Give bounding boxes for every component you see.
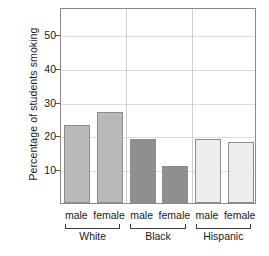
category-label: female [224, 209, 256, 221]
group-bracket [196, 224, 251, 229]
group-bracket [65, 224, 120, 229]
group-label: Hispanic [203, 230, 243, 242]
gridline [61, 70, 255, 71]
bar [228, 142, 254, 203]
bar [195, 139, 221, 203]
category-label: female [159, 209, 191, 221]
bar [130, 139, 156, 203]
bar [162, 166, 188, 203]
gridline [61, 104, 255, 105]
panel-separator [192, 9, 193, 203]
y-tick-label: 10 [22, 164, 56, 176]
category-label: male [196, 209, 219, 221]
group-bracket [130, 224, 185, 229]
y-tick-label: 40 [22, 63, 56, 75]
plot-area [60, 8, 256, 204]
group-label: White [79, 230, 106, 242]
category-label: female [93, 209, 125, 221]
y-tick-label: 20 [22, 130, 56, 142]
y-tick-label: 50 [22, 29, 56, 41]
bar-chart-figure: Percentage of students smoking 102030405… [0, 0, 269, 256]
category-label: male [65, 209, 88, 221]
bar [97, 112, 123, 203]
bar [64, 125, 90, 203]
panel-separator [126, 9, 127, 203]
gridline [61, 36, 255, 37]
category-label: male [130, 209, 153, 221]
y-tick-label: 30 [22, 97, 56, 109]
group-label: Black [145, 230, 171, 242]
